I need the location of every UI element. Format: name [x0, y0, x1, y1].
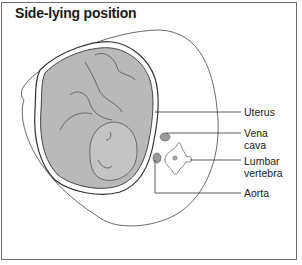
label-uterus: Uterus — [244, 106, 275, 118]
label-lumbar-vertebra: Lumbar vertebra — [244, 155, 283, 179]
label-vena-cava-line2: cava — [244, 139, 268, 151]
label-lumbar-line2: vertebra — [244, 167, 283, 179]
vena-cava-vessel — [160, 133, 170, 141]
label-vena-cava-line1: Vena — [244, 127, 268, 139]
aorta-vessel — [153, 153, 161, 163]
label-aorta: Aorta — [244, 187, 269, 199]
label-vena-cava: Vena cava — [244, 127, 268, 151]
label-lumbar-line1: Lumbar — [244, 155, 283, 167]
